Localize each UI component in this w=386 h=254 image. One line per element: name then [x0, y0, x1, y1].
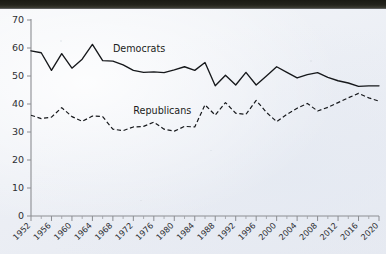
data-series-group: [31, 44, 379, 131]
x-axis-tick-label: 1992: [215, 220, 237, 242]
x-axis-tick-label: 1988: [195, 220, 217, 242]
chart-plot-area: 706050403020100 195219561960196419681972…: [0, 0, 386, 254]
x-axis-tick-label: 1952: [11, 220, 33, 242]
y-axis-tick-label: 40: [12, 98, 24, 109]
x-axis-tick-label: 1968: [92, 220, 114, 242]
x-axis-tick-label: 1984: [174, 220, 196, 242]
x-axis-tick-label: 1964: [72, 220, 94, 242]
x-axis-tick-label: 2012: [318, 220, 340, 242]
x-axis-tick-label: 1976: [133, 220, 155, 242]
series-line-republicans: [31, 93, 379, 131]
x-axis-tick-label: 2008: [297, 220, 319, 242]
line-chart: 706050403020100 195219561960196419681972…: [0, 0, 386, 254]
x-axis-tick-label: 2016: [338, 220, 360, 242]
x-axis-tick-label: 2020: [359, 220, 381, 242]
x-axis-tick-label: 1996: [236, 220, 258, 242]
y-axis-tick-label: 0: [18, 210, 24, 221]
x-axis-tick-label: 1956: [31, 220, 53, 242]
y-axis: 706050403020100: [12, 14, 31, 221]
x-axis: 1952195619601964196819721976198019841988…: [11, 216, 381, 242]
y-axis-tick-label: 50: [12, 70, 24, 81]
x-axis-tick-label: 1972: [113, 220, 135, 242]
series-label-republicans: Republicans: [133, 105, 191, 116]
y-axis-tick-label: 10: [12, 182, 24, 193]
series-line-democrats: [31, 44, 379, 86]
x-axis-tick-label: 1960: [52, 220, 74, 242]
series-label-democrats: Democrats: [113, 43, 165, 54]
y-axis-tick-label: 30: [12, 126, 24, 137]
y-axis-tick-label: 70: [12, 14, 24, 25]
x-axis-tick-label: 2000: [256, 220, 278, 242]
y-axis-tick-label: 60: [12, 42, 24, 53]
x-axis-tick-label: 1980: [154, 220, 176, 242]
series-annotations: DemocratsRepublicans: [113, 43, 191, 116]
y-axis-tick-label: 20: [12, 154, 24, 165]
x-axis-tick-label: 2004: [277, 220, 299, 242]
